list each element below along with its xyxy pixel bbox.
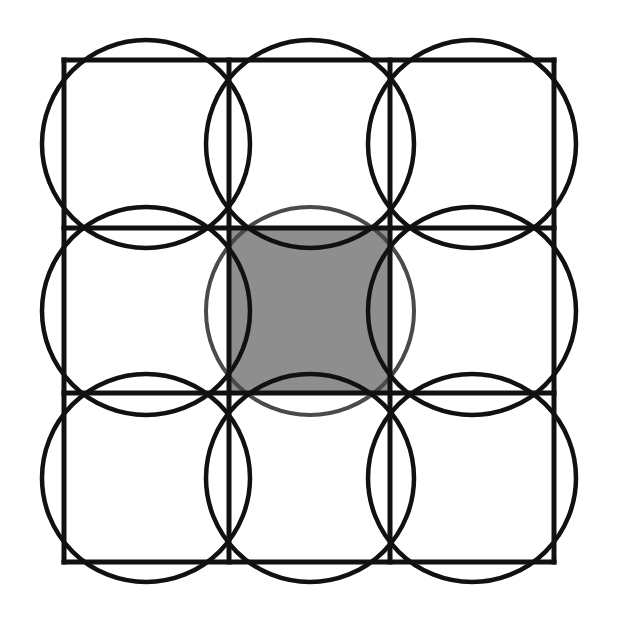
- circle-r1c1: [42, 40, 250, 248]
- circle-r1c3: [368, 40, 576, 248]
- diagram-canvas: [0, 0, 618, 631]
- grid-circles-diagram: [0, 0, 618, 631]
- circle-r2c3: [368, 207, 576, 415]
- circle-r3c2: [206, 374, 414, 582]
- circle-r3c1: [42, 374, 250, 582]
- circle-r3c3: [368, 374, 576, 582]
- circle-r1c2: [206, 40, 414, 248]
- circle-r2c1: [42, 207, 250, 415]
